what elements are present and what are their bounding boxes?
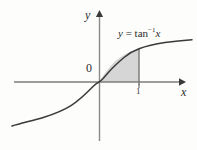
arctangent-plot xyxy=(0,0,197,150)
y-axis-arrowhead xyxy=(96,10,103,17)
figure-container: y x 0 1 y = tan−1x xyxy=(0,0,197,150)
y-axis-label: y xyxy=(85,9,90,21)
arctan-curve xyxy=(12,40,192,126)
x-tick-label-one: 1 xyxy=(136,87,141,96)
curve-equation-label: y = tan−1x xyxy=(118,28,160,39)
equation-exponent: −1 xyxy=(148,26,155,34)
origin-label: 0 xyxy=(86,62,92,74)
x-axis-label: x xyxy=(181,86,186,98)
equation-argument: x xyxy=(156,27,161,39)
equation-function: tan xyxy=(135,27,148,39)
